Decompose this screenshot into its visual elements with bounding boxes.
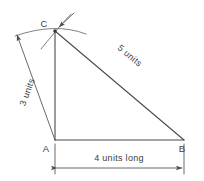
geometry-figure: A B C 3 units 5 units 4 units long <box>0 0 204 181</box>
vertex-label-a: A <box>43 143 50 154</box>
dimension-line-5-units <box>59 13 74 27</box>
vertex-label-c: C <box>41 18 48 29</box>
dimension-label-base: 4 units long <box>94 153 144 163</box>
dimension-label-3-units: 3 units <box>18 77 37 107</box>
vertex-marker-c <box>53 29 57 33</box>
compass-arc-from-a <box>15 28 86 36</box>
vertex-label-b: B <box>179 143 185 154</box>
dimension-label-5-units: 5 units <box>116 43 145 69</box>
triangle-diagram-svg: A B C 3 units 5 units 4 units long <box>0 0 204 181</box>
